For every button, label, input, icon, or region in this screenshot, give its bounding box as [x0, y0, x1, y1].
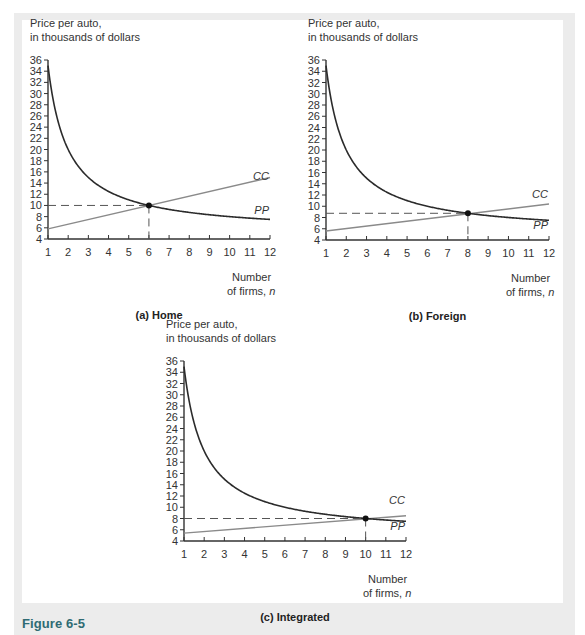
equilibrium-point [363, 516, 369, 522]
y-tick-label: 22 [30, 132, 42, 144]
x-tick-label: 10 [224, 246, 236, 258]
y-tick-label: 12 [166, 490, 178, 502]
y-tick-label: 16 [30, 166, 42, 178]
pp-curve [48, 66, 270, 220]
x-tick-label: 5 [262, 548, 268, 560]
x-tick-label: 3 [221, 548, 227, 560]
x-tick-label: 6 [424, 247, 430, 259]
x-axis-title: Number [232, 271, 271, 283]
x-tick-label: 6 [282, 548, 288, 560]
y-tick-label: 32 [166, 378, 178, 390]
x-tick-label: 2 [343, 247, 349, 259]
y-tick-label: 6 [172, 524, 178, 536]
x-tick-label: 9 [342, 548, 348, 560]
y-tick-label: 26 [166, 411, 178, 423]
x-tick-label: 8 [322, 548, 328, 560]
y-tick-label: 34 [166, 366, 178, 378]
y-axis-title-line2: in thousands of dollars [30, 31, 141, 43]
x-axis-title-line2: of firms, n [227, 285, 275, 297]
x-tick-label: 10 [360, 548, 372, 560]
y-tick-label: 22 [308, 133, 320, 145]
chart-integrated: Price per auto,in thousands of dollars46… [166, 318, 412, 623]
y-tick-label: 14 [30, 177, 42, 189]
y-axis-title-line2: in thousands of dollars [308, 31, 419, 43]
x-axis-title-line2: of firms, n [363, 587, 411, 599]
y-tick-label: 34 [308, 65, 320, 77]
equilibrium-point [146, 202, 152, 208]
pp-label: PP [254, 204, 269, 216]
y-axis-title: Price per auto, [308, 17, 380, 29]
y-tick-label: 10 [166, 501, 178, 513]
y-tick-label: 12 [30, 188, 42, 200]
pp-label: PP [533, 219, 548, 231]
y-tick-label: 26 [30, 110, 42, 122]
cc-line [48, 177, 270, 228]
y-tick-label: 10 [30, 199, 42, 211]
x-tick-label: 12 [543, 247, 555, 259]
y-tick-label: 24 [30, 121, 42, 133]
x-tick-label: 1 [45, 246, 51, 258]
x-tick-label: 6 [146, 246, 152, 258]
y-tick-label: 28 [308, 99, 320, 111]
y-tick-label: 32 [30, 76, 42, 88]
y-tick-label: 6 [314, 223, 320, 235]
y-tick-label: 4 [36, 233, 42, 245]
pp-label: PP [390, 520, 405, 532]
x-tick-label: 8 [465, 247, 471, 259]
x-axis-title: Number [511, 272, 550, 284]
y-tick-label: 32 [308, 77, 320, 89]
x-tick-label: 9 [485, 247, 491, 259]
x-tick-label: 5 [404, 247, 410, 259]
y-tick-label: 20 [30, 144, 42, 156]
y-tick-label: 24 [166, 423, 178, 435]
panel-title: (c) Integrated [260, 611, 330, 623]
x-tick-label: 11 [523, 247, 534, 259]
y-tick-label: 24 [308, 122, 320, 134]
x-tick-label: 4 [241, 548, 247, 560]
y-tick-label: 36 [30, 54, 42, 66]
y-tick-label: 6 [36, 222, 42, 234]
y-tick-label: 18 [308, 155, 320, 167]
y-tick-label: 28 [166, 400, 178, 412]
x-axis-title: Number [368, 573, 407, 585]
y-tick-label: 26 [308, 110, 320, 122]
x-tick-label: 9 [206, 246, 212, 258]
y-tick-label: 28 [30, 99, 42, 111]
y-tick-label: 36 [166, 355, 178, 367]
x-tick-label: 3 [363, 247, 369, 259]
cc-label: CC [389, 494, 405, 506]
x-tick-label: 3 [85, 246, 91, 258]
chart-home: Price per auto,in thousands of dollars46… [30, 17, 276, 321]
x-tick-label: 4 [384, 247, 390, 259]
y-tick-label: 12 [308, 189, 320, 201]
y-axis-title: Price per auto, [166, 318, 238, 330]
x-tick-label: 11 [380, 548, 391, 560]
x-tick-label: 7 [166, 246, 172, 258]
equilibrium-point [465, 210, 471, 216]
x-tick-label: 10 [502, 247, 514, 259]
y-tick-label: 4 [172, 535, 178, 547]
y-tick-label: 10 [308, 200, 320, 212]
cc-label: CC [532, 188, 548, 200]
y-tick-label: 16 [308, 167, 320, 179]
y-tick-label: 8 [314, 212, 320, 224]
x-tick-label: 1 [323, 247, 329, 259]
x-tick-label: 1 [181, 548, 187, 560]
y-tick-label: 14 [166, 479, 178, 491]
x-tick-label: 12 [400, 548, 412, 560]
y-tick-label: 30 [166, 389, 178, 401]
y-tick-label: 16 [166, 468, 178, 480]
y-axis-title: Price per auto, [30, 17, 102, 29]
x-tick-label: 11 [244, 246, 255, 258]
x-tick-label: 2 [201, 548, 207, 560]
y-tick-label: 34 [30, 65, 42, 77]
y-tick-label: 8 [172, 513, 178, 525]
charts-canvas: Price per auto,in thousands of dollars46… [0, 0, 585, 635]
y-tick-label: 18 [166, 456, 178, 468]
x-tick-label: 7 [302, 548, 308, 560]
y-tick-label: 30 [308, 88, 320, 100]
pp-curve [184, 367, 406, 522]
y-tick-label: 30 [30, 88, 42, 100]
y-tick-label: 20 [166, 445, 178, 457]
y-tick-label: 22 [166, 434, 178, 446]
